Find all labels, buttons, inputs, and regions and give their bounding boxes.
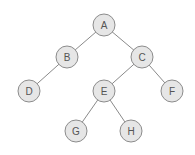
- tree-node-h: H: [120, 120, 142, 142]
- node-label: F: [169, 86, 175, 97]
- node-label: C: [138, 52, 145, 63]
- tree-nodes: ABCDEFGH: [18, 14, 183, 142]
- node-label: H: [127, 126, 134, 137]
- node-label: A: [101, 20, 108, 31]
- tree-node-f: F: [161, 80, 183, 102]
- tree-node-g: G: [65, 120, 87, 142]
- node-label: G: [72, 126, 80, 137]
- tree-node-b: B: [56, 46, 78, 68]
- node-label: E: [101, 86, 108, 97]
- binary-tree-diagram: ABCDEFGH: [0, 0, 195, 155]
- node-label: D: [25, 86, 32, 97]
- tree-edges: [29, 25, 172, 131]
- tree-node-d: D: [18, 80, 40, 102]
- tree-node-e: E: [93, 80, 115, 102]
- tree-node-a: A: [93, 14, 115, 36]
- tree-node-c: C: [131, 46, 153, 68]
- node-label: B: [64, 52, 71, 63]
